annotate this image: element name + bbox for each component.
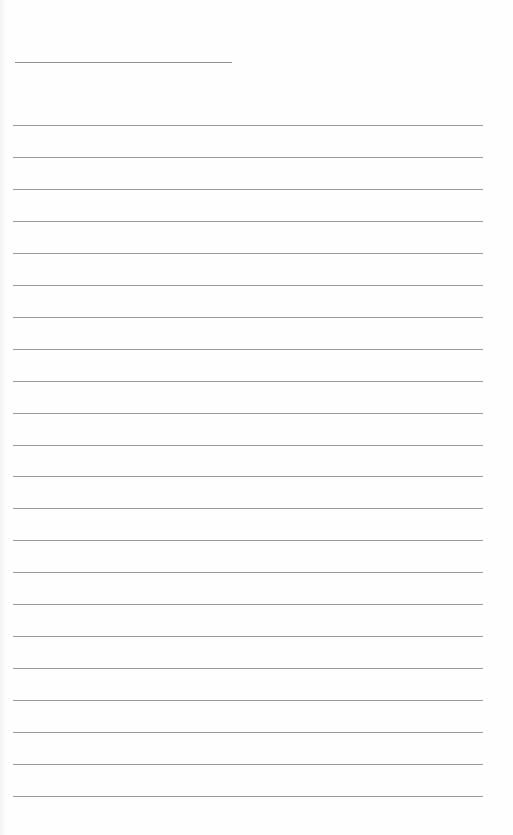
ruled-line xyxy=(13,540,483,541)
ruled-line xyxy=(13,476,483,477)
ruled-line xyxy=(13,381,483,382)
ruled-line xyxy=(13,764,483,765)
ruled-line xyxy=(13,572,483,573)
lined-paper-page xyxy=(0,0,513,835)
ruled-line xyxy=(13,508,483,509)
ruled-line xyxy=(13,700,483,701)
ruled-line xyxy=(13,796,483,797)
ruled-line xyxy=(13,221,483,222)
ruled-line xyxy=(13,604,483,605)
ruled-line xyxy=(13,189,483,190)
ruled-line xyxy=(13,317,483,318)
ruled-line xyxy=(13,349,483,350)
ruled-line xyxy=(13,445,483,446)
ruled-line xyxy=(13,413,483,414)
ruled-line xyxy=(13,732,483,733)
header-name-line xyxy=(15,62,232,63)
ruled-line xyxy=(13,285,483,286)
ruled-line xyxy=(13,125,483,126)
ruled-line xyxy=(13,157,483,158)
page-edge-shadow xyxy=(0,0,6,835)
ruled-line xyxy=(13,636,483,637)
ruled-line xyxy=(13,253,483,254)
ruled-line xyxy=(13,668,483,669)
